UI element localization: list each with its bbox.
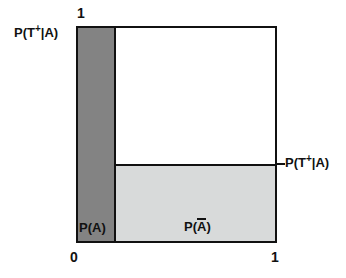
right-axis-tick-mark [277, 163, 285, 165]
region-negative-test-not-a [116, 28, 275, 164]
area-label-not-a-prefix: P( [184, 219, 197, 234]
area-label-p-not-a: P(A) [184, 220, 211, 233]
area-label-not-a-suffix: ) [206, 219, 210, 234]
label-right-argument: A [315, 155, 324, 170]
y-axis-tick-1: 1 [77, 6, 85, 20]
x-axis-tick-0: 0 [70, 250, 78, 264]
label-right-prefix: P(T [285, 155, 306, 170]
plot-box [76, 26, 277, 243]
region-p-a [78, 28, 116, 241]
label-left-suffix: ) [54, 25, 58, 40]
probability-unit-square-figure: 1 P(T+|A) P(A) P(A) P(T+|A) 0 1 [0, 0, 346, 278]
label-left-argument: A [44, 25, 53, 40]
area-label-not-a-overbar-argument: A [197, 220, 206, 233]
area-label-p-a: P(A) [79, 221, 106, 234]
label-p-tplus-given-a-right: P(T+|A) [285, 156, 329, 169]
label-left-prefix: P(T [14, 25, 35, 40]
label-p-tplus-given-a-left: P(T+|A) [14, 26, 58, 39]
x-axis-tick-1: 1 [271, 250, 279, 264]
label-right-suffix: ) [325, 155, 329, 170]
